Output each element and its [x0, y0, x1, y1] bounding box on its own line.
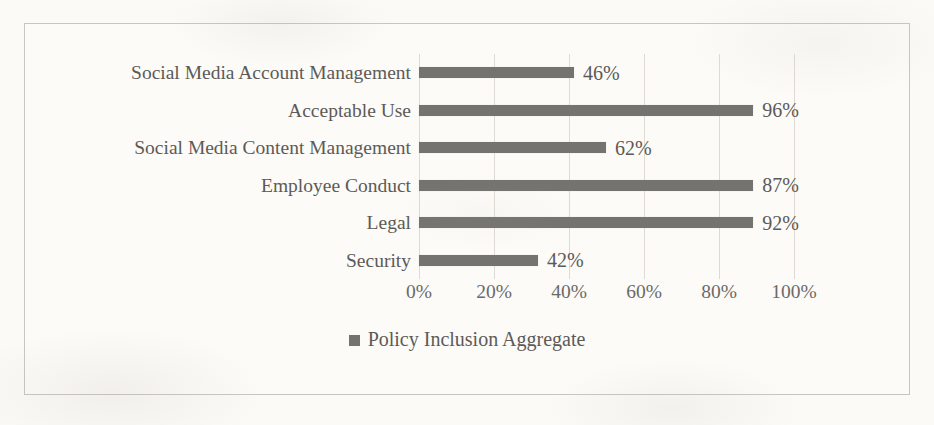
x-tick-label: 80% — [701, 282, 737, 302]
bar-row: 46% — [419, 54, 799, 92]
x-tick-label: 100% — [771, 282, 817, 302]
category-label: Security — [346, 242, 411, 280]
bar-row: 96% — [419, 92, 799, 130]
x-tick-label: 20% — [476, 282, 512, 302]
category-label: Acceptable Use — [288, 92, 411, 130]
bar — [419, 67, 574, 78]
bar-row: 42% — [419, 242, 799, 280]
bar-value-label: 46% — [583, 63, 620, 83]
bar — [419, 105, 753, 116]
category-label: Social Media Content Management — [134, 129, 411, 167]
bar-value-label: 96% — [762, 100, 799, 120]
bar-value-label: 87% — [762, 175, 799, 195]
x-tick-label: 40% — [551, 282, 587, 302]
x-tick-label: 0% — [406, 282, 432, 302]
x-tick-label: 60% — [626, 282, 662, 302]
bar — [419, 142, 606, 153]
chart-container: Social Media Account ManagementAcceptabl… — [24, 23, 910, 395]
bar-row: 87% — [419, 167, 799, 205]
chart-legend: Policy Inclusion Aggregate — [25, 329, 909, 349]
bar — [419, 255, 538, 266]
bar-value-label: 42% — [547, 250, 584, 270]
legend-swatch-icon — [349, 335, 360, 346]
bar-row: 62% — [419, 129, 799, 167]
legend-label: Policy Inclusion Aggregate — [368, 329, 586, 349]
category-label: Employee Conduct — [261, 167, 411, 205]
bar-series-policy-inclusion-aggregate: 46%96%62%87%92%42% — [419, 54, 799, 279]
bar-value-label: 92% — [762, 213, 799, 233]
x-axis-tick-labels: 0%20%40%60%80%100% — [419, 282, 799, 312]
bar-row: 92% — [419, 204, 799, 242]
category-axis-labels: Social Media Account ManagementAcceptabl… — [55, 54, 411, 279]
category-label: Social Media Account Management — [131, 54, 411, 92]
plot-area: 46%96%62%87%92%42% — [419, 54, 799, 279]
bar — [419, 217, 753, 228]
category-label: Legal — [367, 204, 411, 242]
bar — [419, 180, 753, 191]
bar-value-label: 62% — [615, 138, 652, 158]
